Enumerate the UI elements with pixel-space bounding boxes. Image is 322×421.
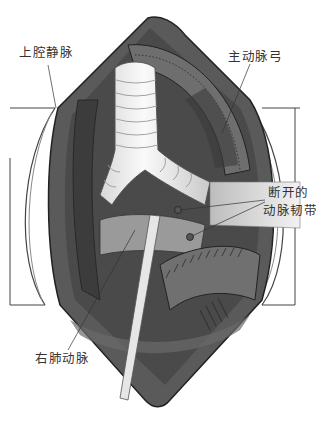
label-superior-vena-cava: 上腔静脉 [19, 44, 73, 61]
ligament-stump-lower [187, 234, 194, 241]
label-divided-ligament-line1: 断开的 [268, 184, 309, 201]
label-right-pulmonary-artery: 右肺动脉 [35, 350, 89, 367]
label-divided-ligament-line2: 动脉韧带 [263, 202, 317, 219]
surgical-illustration: 上腔静脉 主动脉弓 断开的 动脉韧带 右肺动脉 [0, 0, 322, 421]
label-aortic-arch: 主动脉弓 [228, 48, 282, 65]
